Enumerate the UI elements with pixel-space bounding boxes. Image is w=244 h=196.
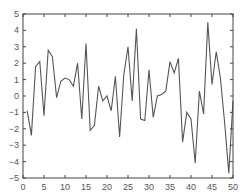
- data-series-layer: [27, 22, 233, 173]
- y-tick-label: −1: [9, 107, 19, 117]
- y-tick-label: 4: [14, 25, 19, 35]
- x-tick-label: 0: [20, 182, 25, 192]
- y-tick-label: 3: [14, 42, 19, 52]
- axes-frame: [23, 14, 233, 178]
- x-tick-label: 30: [144, 182, 154, 192]
- x-tick-label: 50: [228, 182, 238, 192]
- y-tick-label: −2: [9, 124, 19, 134]
- x-tick-label: 20: [102, 182, 112, 192]
- y-tick-label: 5: [14, 9, 19, 19]
- y-tick-label: 2: [14, 58, 19, 68]
- x-tick-label: 10: [60, 182, 70, 192]
- y-tick-label: −3: [9, 140, 19, 150]
- x-tick-label: 35: [165, 182, 175, 192]
- line-chart: 05101520253035404550 −5−4−3−2−1012345: [0, 0, 244, 196]
- x-tick-label: 45: [207, 182, 217, 192]
- y-tick-label: 1: [14, 75, 19, 85]
- y-tick-label: −5: [9, 173, 19, 183]
- x-tick-label: 5: [41, 182, 46, 192]
- x-tick-label: 15: [81, 182, 91, 192]
- data-line: [27, 22, 233, 173]
- y-tick-label: −4: [9, 157, 19, 167]
- x-tick-label: 40: [186, 182, 196, 192]
- x-tick-label: 25: [123, 182, 133, 192]
- y-tick-label: 0: [14, 91, 19, 101]
- x-axis-ticks: 05101520253035404550: [20, 14, 238, 192]
